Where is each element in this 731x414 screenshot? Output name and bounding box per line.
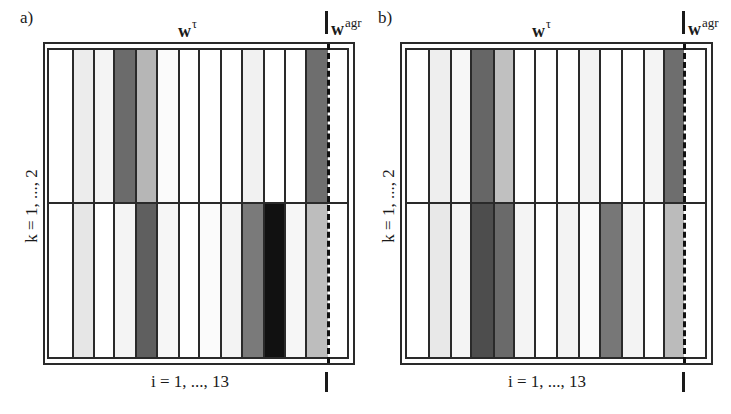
heatmap-cell — [284, 203, 305, 357]
heatmap-cell — [407, 50, 428, 203]
heatmap-cell — [93, 50, 113, 203]
heatmap-cell — [578, 50, 599, 203]
heatmap-cell — [49, 50, 72, 203]
heatmap-cell — [663, 203, 684, 357]
heatmap-cell — [684, 50, 705, 203]
heatmap-cell — [135, 50, 156, 203]
heatmap-cell — [178, 203, 198, 357]
y-axis-label-b: k = 1, ..., 2 — [379, 156, 399, 256]
heatmap-cell — [493, 50, 513, 203]
panel-label-b: b) — [378, 8, 392, 28]
heatmap-cell — [72, 203, 93, 357]
heatmap-cell — [305, 203, 328, 357]
heatmap-cell — [113, 50, 135, 203]
agr-dashed-separator — [327, 44, 330, 363]
heatmap-cell — [49, 203, 72, 357]
w-tau-label-a: wτ — [178, 17, 197, 42]
agr-marker-top-b — [682, 11, 685, 34]
heatmap-cell — [72, 50, 93, 203]
heatmap-cell — [113, 203, 135, 357]
y-axis-label-a: k = 1, ..., 2 — [22, 156, 42, 256]
heatmap-cell — [263, 203, 284, 357]
heatmap-cell — [428, 50, 450, 203]
heatmap-cell — [621, 50, 643, 203]
w-tau-sup: τ — [192, 17, 197, 31]
x-axis-label-a: i = 1, ..., 13 — [140, 372, 240, 392]
heatmap-cell — [241, 203, 263, 357]
heatmap-cell — [578, 203, 599, 357]
heatmap-cell — [599, 50, 621, 203]
w-agr-sup: agr — [345, 15, 362, 30]
agr-marker-bottom-b — [682, 372, 685, 392]
heatmap-grid-a — [47, 48, 349, 359]
heatmap-cell — [556, 50, 578, 203]
heatmap-cell — [407, 203, 428, 357]
heatmap-cell — [643, 50, 663, 203]
heatmap-cell — [470, 50, 493, 203]
heatmap-cell — [305, 50, 328, 203]
heatmap-cell — [663, 50, 684, 203]
heatmap-grid-b — [405, 48, 707, 359]
heatmap-cell — [198, 203, 220, 357]
heatmap-cell — [493, 203, 513, 357]
row-divider — [407, 202, 705, 204]
heatmap-cell — [220, 203, 241, 357]
heatmap-cell — [643, 203, 663, 357]
heatmap-cell — [513, 203, 534, 357]
agr-dashed-separator — [683, 44, 686, 363]
w-agr-sup: agr — [702, 15, 719, 30]
heatmap-cell — [450, 203, 470, 357]
heatmap-cell — [599, 203, 621, 357]
heatmap-cell — [450, 50, 470, 203]
heatmap-cell — [534, 203, 556, 357]
heatmap-cell — [534, 50, 556, 203]
heatmap-cell — [621, 203, 643, 357]
heatmap-cell — [556, 203, 578, 357]
heatmap-cell — [470, 203, 493, 357]
panel-label-a: a) — [20, 8, 33, 28]
agr-marker-top-a — [325, 11, 328, 34]
heatmap-cell — [284, 50, 305, 203]
w-tau-base: w — [178, 21, 191, 41]
w-tau-base: w — [532, 21, 545, 41]
heatmap-cell — [513, 50, 534, 203]
heatmap-cell — [220, 50, 241, 203]
heatmap-cell — [156, 50, 178, 203]
heatmap-cell — [328, 203, 347, 357]
heatmap-cell — [93, 203, 113, 357]
heatmap-cell — [328, 50, 347, 203]
w-agr-label-b: wagr — [688, 15, 719, 40]
agr-marker-bottom-a — [325, 372, 328, 392]
heatmap-cell — [135, 203, 156, 357]
w-agr-label-a: wagr — [331, 15, 362, 40]
w-tau-sup: τ — [546, 17, 551, 31]
heatmap-cell — [684, 203, 705, 357]
heatmap-cell — [263, 50, 284, 203]
w-tau-label-b: wτ — [532, 17, 551, 42]
row-divider — [49, 202, 347, 204]
x-axis-label-b: i = 1, ..., 13 — [497, 372, 597, 392]
w-agr-base: w — [688, 19, 701, 39]
heatmap-cell — [156, 203, 178, 357]
heatmap-cell — [428, 203, 450, 357]
heatmap-cell — [178, 50, 198, 203]
heatmap-cell — [198, 50, 220, 203]
w-agr-base: w — [331, 19, 344, 39]
heatmap-cell — [241, 50, 263, 203]
